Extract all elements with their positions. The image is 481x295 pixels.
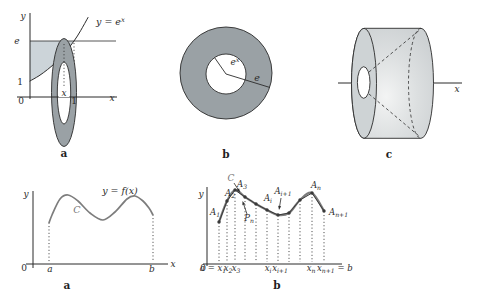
label-An1: An+1 [328, 207, 348, 218]
y-axis-label: y [197, 189, 204, 199]
function-label: y = f(x) [101, 185, 138, 196]
one-tick-x: 1 [71, 96, 77, 106]
vertex-dots [287, 211, 290, 214]
curve-C [49, 195, 153, 223]
origin-label: 0 [18, 96, 24, 106]
exp-curve-label: y = ex [95, 16, 125, 27]
label-A1: A1 [209, 207, 220, 218]
label-C: C [228, 173, 235, 183]
tick-xn1-b: xn+1 = b [317, 263, 353, 274]
e-tick-label: e [14, 36, 19, 46]
figure-caption-top-left: a [54, 148, 74, 159]
y-axis-label: y [22, 189, 29, 199]
vertex-dots [265, 208, 268, 211]
annulus-cross-section: exe [180, 27, 272, 119]
curve-name-label: C [73, 204, 81, 215]
x-axis-label: x [170, 259, 175, 269]
figure-caption-top-middle: b [216, 149, 236, 160]
arrow-to-Ai1 [278, 198, 281, 210]
a-tick-label: a [47, 264, 52, 274]
tick-xi: xi [265, 263, 272, 274]
vertex-dots [276, 213, 279, 216]
x-axis-label: x [454, 84, 459, 94]
label-An: An [310, 180, 321, 191]
label-Ai: Ai [263, 193, 272, 204]
exp-graph-with-washer: yxe101xy = ex [14, 11, 125, 147]
one-tick-y: 1 [17, 77, 23, 87]
outer-radius-label: e [254, 72, 260, 83]
vertex-dots [225, 199, 228, 202]
tick-x3: x3 [232, 263, 241, 274]
vertex-dots [298, 198, 301, 201]
axis-hole [357, 67, 370, 99]
vertex-dots [243, 195, 246, 198]
polygonal-approximation: y0a = x1x2x3xixi+1xnxn+1 = bA1A2A3CPnAiA… [197, 173, 352, 274]
y-axis-label: y [19, 11, 26, 21]
label-Pn: Pn [243, 213, 254, 224]
b-tick-label: b [149, 264, 155, 274]
tick-a-x1: a = x1 [200, 263, 226, 274]
vertex-dots [254, 202, 257, 205]
vertex-dots [310, 191, 313, 194]
figure-caption-bottom-right: b [267, 280, 287, 291]
label-Ai1: Ai+1 [273, 186, 291, 197]
tick-xi1: xi+1 [272, 263, 288, 274]
solid-of-revolution-cylinder: x [338, 28, 462, 138]
x-sample-label: x [61, 88, 66, 98]
smooth-curve-y-fx: yx0abCy = f(x) [21, 185, 175, 274]
origin-label: 0 [21, 263, 27, 273]
x-axis-label: x [109, 93, 114, 103]
calculus-figure-page: { "colors": { "ink": "#2b2b2b", "washer"… [0, 0, 481, 295]
vertex-dots [322, 209, 325, 212]
figure-caption-bottom-left: a [57, 280, 77, 291]
tick-xn: xn [307, 263, 316, 274]
vertex-dots [217, 220, 220, 223]
figure-caption-top-right: c [379, 149, 399, 160]
label-A3: A3 [236, 179, 247, 190]
